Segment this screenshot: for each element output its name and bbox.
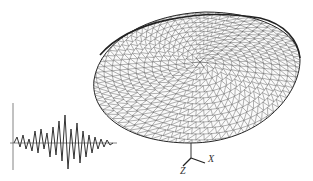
axis-z-label: Z [180, 165, 186, 176]
seismic-wave [10, 103, 117, 170]
lattice-dome [88, 0, 312, 146]
figure-canvas: Z X [0, 0, 313, 181]
axis-x-label: X [207, 153, 215, 164]
axis-triad: Z X [180, 143, 215, 176]
